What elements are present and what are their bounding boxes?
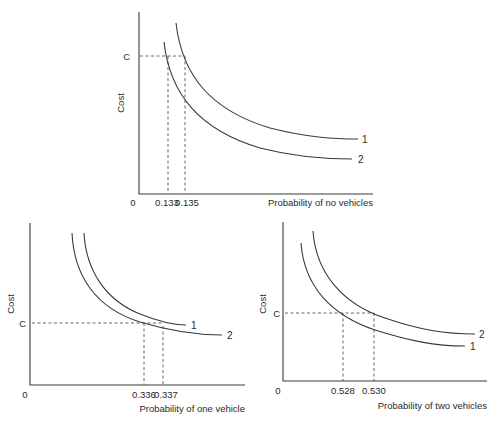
curve-2 — [164, 42, 352, 159]
chart-two-vehicles: Cost C 0 0.528 0.530 Probability of two … — [257, 222, 487, 411]
x-axis-label: Probability of one vehicle — [139, 403, 245, 414]
cost-level-label: C — [19, 318, 26, 329]
y-axis-label: Cost — [257, 294, 268, 314]
cost-level-label: C — [273, 308, 280, 319]
curve-2 — [72, 233, 222, 335]
axes — [139, 12, 373, 194]
x-tick: 0.530 — [362, 385, 386, 396]
curve-1 — [301, 243, 465, 346]
axes — [30, 223, 245, 385]
y-axis-label: Cost — [115, 93, 126, 113]
x-tick: 0.337 — [154, 389, 178, 400]
y-axis-label: Cost — [5, 294, 16, 314]
curve-label: 1 — [191, 320, 197, 331]
origin-label: 0 — [22, 389, 27, 400]
curve-label: 1 — [470, 341, 476, 352]
curve-label: 2 — [227, 330, 233, 341]
chart-one-vehicle: Cost C 0 0.336 0.337 Probability of one … — [5, 223, 245, 414]
origin-label: 0 — [130, 197, 135, 208]
curve-label: 1 — [362, 134, 368, 145]
axes — [283, 222, 487, 381]
curve-1 — [84, 233, 186, 325]
curve-2 — [313, 231, 475, 334]
x-tick: 0.135 — [175, 197, 199, 208]
x-axis-label: Probability of no vehicles — [268, 197, 373, 208]
origin-label: 0 — [275, 385, 280, 396]
figure: Cost C 0 0.133 0.135 Probability of no v… — [0, 0, 496, 423]
x-tick: 0.336 — [132, 389, 156, 400]
x-axis-label: Probability of two vehicles — [378, 400, 488, 411]
curve-label: 2 — [479, 329, 485, 340]
curve-1 — [176, 23, 358, 139]
chart-no-vehicles: Cost C 0 0.133 0.135 Probability of no v… — [115, 12, 373, 208]
curve-label: 2 — [358, 154, 364, 165]
cost-level-label: C — [123, 51, 130, 62]
x-tick: 0.528 — [331, 385, 355, 396]
